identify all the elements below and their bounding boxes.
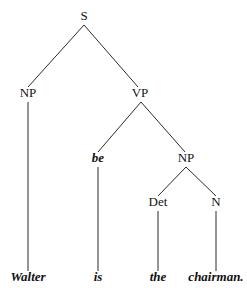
- tree-edge-np2-to-n: [186, 167, 216, 196]
- tree-terminal-t-walter: Walter: [10, 269, 46, 284]
- tree-terminal-t-is: is: [94, 269, 103, 284]
- syntax-tree-figure: SNPVPbeNPDetN Walteristhechairman.: [0, 0, 247, 293]
- tree-terminal-t-chairman: chairman.: [188, 269, 243, 284]
- tree-node-be: be: [92, 150, 105, 165]
- tree-edge-group: [28, 25, 216, 271]
- tree-terminal-t-the: the: [150, 269, 167, 284]
- tree-node-vp: VP: [132, 85, 149, 100]
- tree-node-np2: NP: [178, 150, 195, 165]
- tree-terminal-group: Walteristhechairman.: [10, 269, 243, 284]
- tree-node-np1: NP: [20, 85, 37, 100]
- tree-node-n: N: [211, 194, 221, 209]
- tree-edge-vp-to-np2: [141, 102, 185, 152]
- tree-edge-np2-to-det: [158, 167, 186, 196]
- tree-node-det: Det: [149, 194, 168, 209]
- tree-node-s: S: [80, 8, 87, 23]
- tree-edge-s-to-np1: [28, 25, 84, 87]
- tree-edge-vp-to-be: [98, 102, 141, 152]
- syntax-tree-canvas: SNPVPbeNPDetN Walteristhechairman.: [0, 0, 247, 293]
- tree-node-group: SNPVPbeNPDetN: [20, 8, 222, 209]
- tree-edge-s-to-vp: [84, 25, 138, 87]
